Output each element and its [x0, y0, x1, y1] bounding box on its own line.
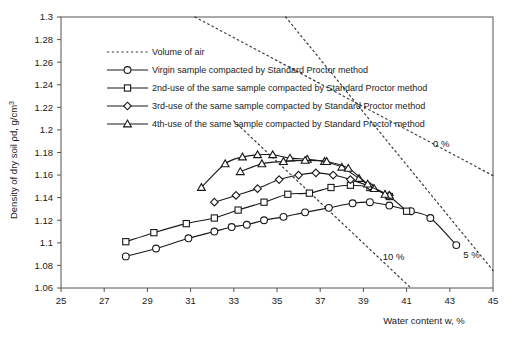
x-tick-label: 43 [445, 295, 456, 306]
legend-marker-circle [124, 67, 131, 74]
y-tick-label: 1.12 [35, 215, 54, 226]
data-point [183, 221, 189, 227]
data-point [185, 235, 192, 242]
data-point [261, 217, 268, 224]
x-tick-label: 39 [358, 295, 369, 306]
x-tick-label: 29 [142, 295, 153, 306]
data-point [404, 208, 410, 214]
data-point [302, 209, 309, 216]
chart-background [0, 0, 514, 337]
x-tick-label: 27 [99, 295, 110, 306]
x-tick-label: 33 [229, 295, 240, 306]
y-tick-label: 1.3 [40, 11, 53, 22]
legend-label: Virgin sample compacted by Standard Proc… [152, 65, 368, 75]
legend-item[interactable]: 3rd-use of the same sample compacted by … [107, 101, 425, 111]
y-tick-label: 1.14 [35, 192, 54, 203]
data-point [453, 242, 460, 249]
air-void-label: 10 % [383, 251, 405, 262]
y-tick-label: 1.1 [40, 237, 53, 248]
y-tick-label: 1.26 [35, 57, 54, 68]
data-point [211, 215, 217, 221]
data-point [153, 245, 160, 252]
legend-label: 3rd-use of the same sample compacted by … [152, 101, 425, 111]
y-tick-label: 1.08 [35, 260, 54, 271]
data-point [325, 204, 332, 211]
y-tick-label: 1.18 [35, 147, 54, 158]
air-void-label: 5 % [463, 249, 480, 260]
y-tick-label: 1.2 [40, 124, 53, 135]
legend-label: Volume of air [152, 47, 205, 57]
data-point [151, 230, 157, 236]
density-water-content-chart: 2527293133353739414345 1.061.081.11.121.… [0, 0, 514, 337]
data-point [306, 190, 312, 196]
y-tick-label: 1.16 [35, 169, 54, 180]
data-point [386, 202, 393, 209]
data-point [349, 200, 356, 207]
data-point [280, 213, 287, 220]
data-point [328, 184, 334, 190]
x-tick-label: 35 [272, 295, 283, 306]
data-point [285, 191, 291, 197]
x-tick-label: 37 [315, 295, 326, 306]
data-point [228, 224, 235, 231]
y-tick-label: 1.24 [35, 79, 54, 90]
data-point [427, 215, 434, 222]
legend-label: 4th-use of the same sample compacted by … [152, 119, 425, 129]
data-point [366, 199, 373, 206]
data-point [243, 221, 250, 228]
legend-item[interactable]: 2nd-use of the same sample compacted by … [107, 83, 427, 93]
data-point [123, 239, 129, 245]
y-tick-label: 1.28 [35, 34, 54, 45]
air-void-label: 0 % [433, 138, 450, 149]
legend-label: 2nd-use of the same sample compacted by … [152, 83, 427, 93]
x-tick-label: 41 [401, 295, 412, 306]
data-point [235, 207, 241, 213]
x-axis-title: Water content w, % [383, 315, 465, 326]
data-point [122, 253, 129, 260]
x-tick-label: 25 [56, 295, 67, 306]
legend-marker-square [124, 85, 130, 91]
legend-item[interactable]: 4th-use of the same sample compacted by … [107, 119, 425, 129]
chart-container: 2527293133353739414345 1.061.081.11.121.… [0, 0, 514, 337]
y-tick-label: 1.22 [35, 102, 54, 113]
x-tick-label: 45 [488, 295, 499, 306]
data-point [211, 228, 218, 235]
x-tick-label: 31 [185, 295, 196, 306]
y-axis-title: Density of dry soil ρd, g/cm3 [8, 101, 20, 219]
data-point [261, 199, 267, 205]
y-tick-label: 1.06 [35, 282, 54, 293]
